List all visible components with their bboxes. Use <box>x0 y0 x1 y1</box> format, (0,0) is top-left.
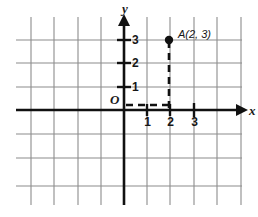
origin-label: O <box>110 93 119 106</box>
y-tick-label-1: 1 <box>132 81 139 93</box>
point-label-a: A(2, 3) <box>178 29 211 40</box>
x-tick-label-1: 1 <box>143 116 152 128</box>
x-tick-label-3: 3 <box>190 116 199 128</box>
x-axis-arrowhead <box>236 104 248 116</box>
coordinate-plane-figure: y x O 3 2 1 1 2 3 A(2, 3) <box>0 0 258 217</box>
plotted-point-a <box>165 36 173 44</box>
y-tick-label-3: 3 <box>132 34 139 46</box>
x-axis-label: x <box>249 104 256 117</box>
guide-lines <box>126 42 170 108</box>
y-tick-label-2: 2 <box>132 57 139 69</box>
x-tick-label-2: 2 <box>166 116 175 128</box>
coordinate-grid-svg <box>0 0 258 217</box>
y-axis-label: y <box>122 2 128 15</box>
